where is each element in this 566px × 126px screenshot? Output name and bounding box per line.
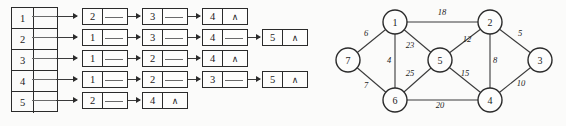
node-link <box>223 72 247 87</box>
vertex-label: 4 <box>488 95 493 106</box>
list-node-terminal: 4 <box>202 8 248 25</box>
graph-vertices: 1 2 3 4 5 6 7 <box>336 10 552 112</box>
node-value: 3 <box>143 9 163 24</box>
node-link <box>103 9 127 24</box>
edge-weight: 25 <box>406 68 415 78</box>
list-arrow <box>248 79 260 80</box>
edge-6-7 <box>357 68 386 92</box>
node-value: 4 <box>203 9 223 24</box>
list-node: 2 <box>142 50 188 67</box>
list-arrow <box>56 37 77 38</box>
node-value: 1 <box>83 51 103 66</box>
list-node-terminal: 4 <box>142 92 188 109</box>
header-pointer-cell <box>34 8 57 28</box>
vertex-label: 6 <box>393 95 398 106</box>
list-arrow <box>128 16 140 17</box>
pointer-stub <box>32 37 56 38</box>
vertex-label: 7 <box>346 55 351 66</box>
node-value: 2 <box>83 93 103 108</box>
header-pointer-cell <box>34 71 57 91</box>
edge-weight: 7 <box>364 80 369 90</box>
header-key: 1 <box>12 8 34 28</box>
node-link <box>163 9 187 24</box>
list-arrow <box>56 58 77 59</box>
list-node: 1 <box>82 29 128 46</box>
node-link <box>103 72 127 87</box>
node-link <box>103 30 127 45</box>
vertex-header-table: 1 2 3 4 5 <box>11 7 58 112</box>
weighted-graph-figure: 18 6 4 23 12 5 8 10 25 15 20 7 <box>290 0 566 126</box>
list-arrow <box>128 58 140 59</box>
edge-weight: 15 <box>461 68 470 78</box>
edge-weight: 10 <box>517 78 526 88</box>
header-row: 1 <box>12 8 57 29</box>
vertex-label: 1 <box>393 17 398 28</box>
edge-3-4 <box>499 67 530 92</box>
list-arrow <box>128 37 140 38</box>
edge-1-7 <box>357 30 385 53</box>
vertex-label: 3 <box>538 55 543 66</box>
header-row: 3 <box>12 50 57 71</box>
list-node: 1 <box>82 50 128 67</box>
pointer-stub <box>32 100 56 101</box>
null-pointer <box>223 9 247 24</box>
list-node: 3 <box>202 71 248 88</box>
node-value: 4 <box>203 30 223 45</box>
header-key: 2 <box>12 29 34 49</box>
list-node: 3 <box>142 8 188 25</box>
node-value: 4 <box>143 93 163 108</box>
node-value: 3 <box>203 72 223 87</box>
list-node: 4 <box>202 29 248 46</box>
node-link <box>223 30 247 45</box>
list-node: 2 <box>82 8 128 25</box>
pointer-stub <box>32 16 56 17</box>
header-row: 2 <box>12 29 57 50</box>
list-node: 2 <box>82 92 128 109</box>
list-node-terminal: 4 <box>202 50 248 67</box>
node-value: 4 <box>203 51 223 66</box>
node-value: 1 <box>83 72 103 87</box>
null-pointer <box>223 51 247 66</box>
list-arrow <box>188 79 200 80</box>
list-arrow <box>188 37 200 38</box>
header-row: 5 <box>12 92 57 113</box>
node-value: 3 <box>143 30 163 45</box>
list-arrow <box>56 100 77 101</box>
list-arrow <box>56 79 77 80</box>
node-value: 2 <box>143 72 163 87</box>
node-link <box>103 51 127 66</box>
header-pointer-cell <box>34 92 57 113</box>
header-key: 3 <box>12 50 34 70</box>
header-pointer-cell <box>34 50 57 70</box>
vertex-label: 2 <box>488 17 493 28</box>
node-value: 5 <box>263 30 283 45</box>
edge-weight: 20 <box>436 100 445 110</box>
list-arrow <box>248 37 260 38</box>
pointer-stub <box>32 58 56 59</box>
adjacency-list-figure: 1 2 3 4 5 2 <box>0 0 290 126</box>
node-link <box>163 72 187 87</box>
header-pointer-cell <box>34 29 57 49</box>
edge-weight: 5 <box>518 28 522 38</box>
edge-weight: 4 <box>387 55 392 65</box>
header-key: 5 <box>12 92 34 113</box>
node-link <box>103 93 127 108</box>
header-key: 4 <box>12 71 34 91</box>
list-arrow <box>128 100 140 101</box>
list-arrow <box>188 58 200 59</box>
list-arrow <box>56 16 77 17</box>
edge-weight: 6 <box>364 28 369 38</box>
node-value: 5 <box>263 72 283 87</box>
node-value: 2 <box>143 51 163 66</box>
node-value: 1 <box>83 30 103 45</box>
list-node: 2 <box>142 71 188 88</box>
node-link <box>163 51 187 66</box>
figure-page: 1 2 3 4 5 2 <box>0 0 566 126</box>
pointer-stub <box>32 79 56 80</box>
list-node: 1 <box>82 71 128 88</box>
edge-weight: 8 <box>493 55 498 65</box>
null-pointer <box>163 93 187 108</box>
edge-weight: 23 <box>406 40 415 50</box>
list-arrow <box>188 16 200 17</box>
vertex-label: 5 <box>438 55 443 66</box>
